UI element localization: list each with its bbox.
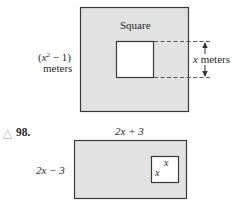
cutout-top-label: x xyxy=(164,157,168,168)
inner-length-unit: meters xyxy=(198,53,230,65)
cutout-side-label: x xyxy=(155,167,159,178)
problem-number: 98. xyxy=(16,126,30,138)
inner-length-label: x meters xyxy=(192,54,231,65)
rectangle-width-label: 2x + 3 xyxy=(115,126,144,137)
square-label: Square xyxy=(120,20,151,31)
side-length-unit: meters xyxy=(43,63,72,74)
diagram-canvas xyxy=(0,0,234,208)
triangle-icon: △ xyxy=(3,126,12,141)
inner-square xyxy=(117,42,154,78)
rectangle-height-label: 2x − 3 xyxy=(36,165,65,176)
